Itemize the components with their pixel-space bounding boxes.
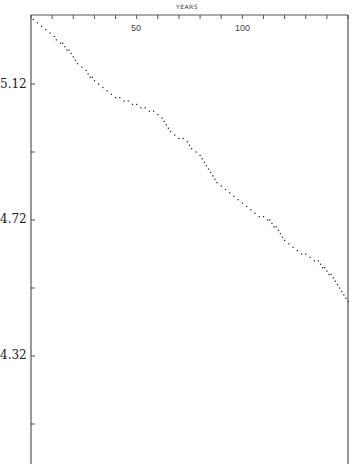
y-tick-label-5-12: 5.12 <box>0 77 27 91</box>
x-axis-title: YEARS <box>176 3 198 10</box>
chart-canvas <box>0 0 358 471</box>
x-tick-label-50: 50 <box>131 23 141 33</box>
y-tick-label-4-72: 4.72 <box>0 212 27 226</box>
y-tick-label-4-32: 4.32 <box>0 348 27 362</box>
x-axis-ticks <box>31 15 348 19</box>
plot-frame <box>31 15 348 464</box>
data-points <box>33 19 349 303</box>
x-tick-label-100: 100 <box>235 23 250 33</box>
